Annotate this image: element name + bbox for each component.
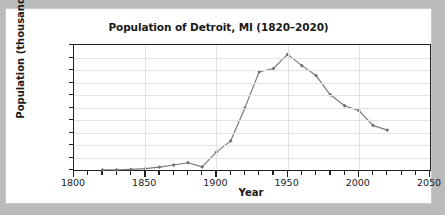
x-tick-minor	[173, 171, 174, 175]
x-tick-major	[358, 171, 359, 177]
x-tick-minor	[87, 171, 88, 175]
gridline-vertical	[145, 45, 146, 170]
x-tick-label: 1800	[51, 177, 95, 188]
x-tick-label: 2000	[336, 177, 380, 188]
figure-inner: Population of Detroit, MI (1820–2020) Po…	[6, 9, 431, 203]
data-point-marker	[385, 128, 389, 132]
x-tick-major	[215, 171, 216, 177]
figure-panel: Population of Detroit, MI (1820–2020) Po…	[5, 8, 432, 204]
x-tick-major	[73, 171, 74, 177]
gridline-vertical	[359, 45, 360, 170]
data-point-marker	[172, 163, 176, 167]
gridline-horizontal	[74, 108, 430, 109]
x-tick-minor	[230, 171, 231, 175]
x-tick-minor	[258, 171, 259, 175]
chart-title: Population of Detroit, MI (1820–2020)	[6, 21, 431, 33]
x-tick-major	[287, 171, 288, 177]
gridline-horizontal	[74, 133, 430, 134]
x-tick-minor	[244, 171, 245, 175]
x-tick-minor	[301, 171, 302, 175]
data-point-marker	[129, 168, 133, 172]
x-tick-label: 1900	[193, 177, 237, 188]
data-point-marker	[158, 165, 162, 169]
gridline-vertical	[288, 45, 289, 170]
gridline-horizontal	[74, 95, 430, 96]
x-tick-minor	[415, 171, 416, 175]
x-tick-minor	[315, 171, 316, 175]
gridline-horizontal	[74, 58, 430, 59]
x-tick-minor	[401, 171, 402, 175]
x-tick-minor	[386, 171, 387, 175]
y-axis-label: Population (thousands)	[15, 0, 26, 133]
x-tick-minor	[344, 171, 345, 175]
x-tick-minor	[187, 171, 188, 175]
gridline-horizontal	[74, 120, 430, 121]
x-tick-label: 1950	[265, 177, 309, 188]
data-point-marker	[186, 161, 190, 165]
x-tick-label: 2050	[407, 177, 445, 188]
gridline-horizontal	[74, 83, 430, 84]
x-tick-major	[429, 171, 430, 177]
x-tick-major	[144, 171, 145, 177]
x-tick-minor	[201, 171, 202, 175]
x-tick-label: 1850	[122, 177, 166, 188]
gridline-vertical	[216, 45, 217, 170]
x-tick-minor	[158, 171, 159, 175]
plot-area	[73, 44, 431, 171]
x-tick-minor	[372, 171, 373, 175]
x-tick-minor	[329, 171, 330, 175]
x-tick-minor	[272, 171, 273, 175]
gridline-horizontal	[74, 158, 430, 159]
gridline-horizontal	[74, 145, 430, 146]
x-axis-label: Year	[73, 187, 429, 198]
gridline-horizontal	[74, 70, 430, 71]
